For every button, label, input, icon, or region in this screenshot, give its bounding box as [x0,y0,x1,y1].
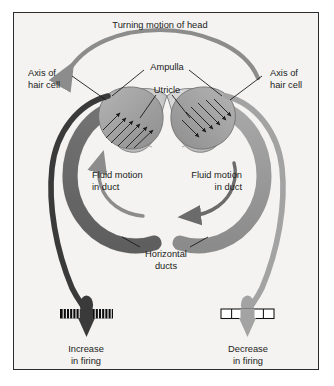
utricle-label: Utricle [154,85,180,95]
fluid-left-label-line1: Fluid motion [92,170,143,180]
axis-right-label-line2: hair cell [270,80,302,90]
diagram-canvas: Turning motion of head Axis of hair cell… [0,0,334,386]
leader-axis-left [72,76,106,100]
axis-left-label-line2: hair cell [28,80,60,90]
fluid-right-label-line2: in duct [215,182,243,192]
vestibular-duct-diagram: Turning motion of head Axis of hair cell… [0,0,334,386]
head-motion-label: Turning motion of head [112,20,207,30]
firing-right-label-line2: in firing [233,356,263,366]
ducts-label-line1: Horizontal [145,249,187,259]
leader-axis-right [230,76,262,100]
fluid-left-label-line2: in duct [92,182,120,192]
axis-right-label-line1: Axis of [270,68,298,78]
axis-left-label-line1: Axis of [28,68,56,78]
firing-output-arrows [78,318,256,337]
left-spike-train [60,309,113,319]
firing-right-label-line1: Decrease [228,344,268,354]
firing-left-label-line1: Increase [68,344,104,354]
ducts-label-line2: ducts [155,261,178,271]
firing-left-label-line2: in firing [71,356,101,366]
ampulla-label: Ampulla [150,62,184,72]
fluid-right-label-line1: Fluid motion [191,170,242,180]
right-spike-train [221,309,274,319]
